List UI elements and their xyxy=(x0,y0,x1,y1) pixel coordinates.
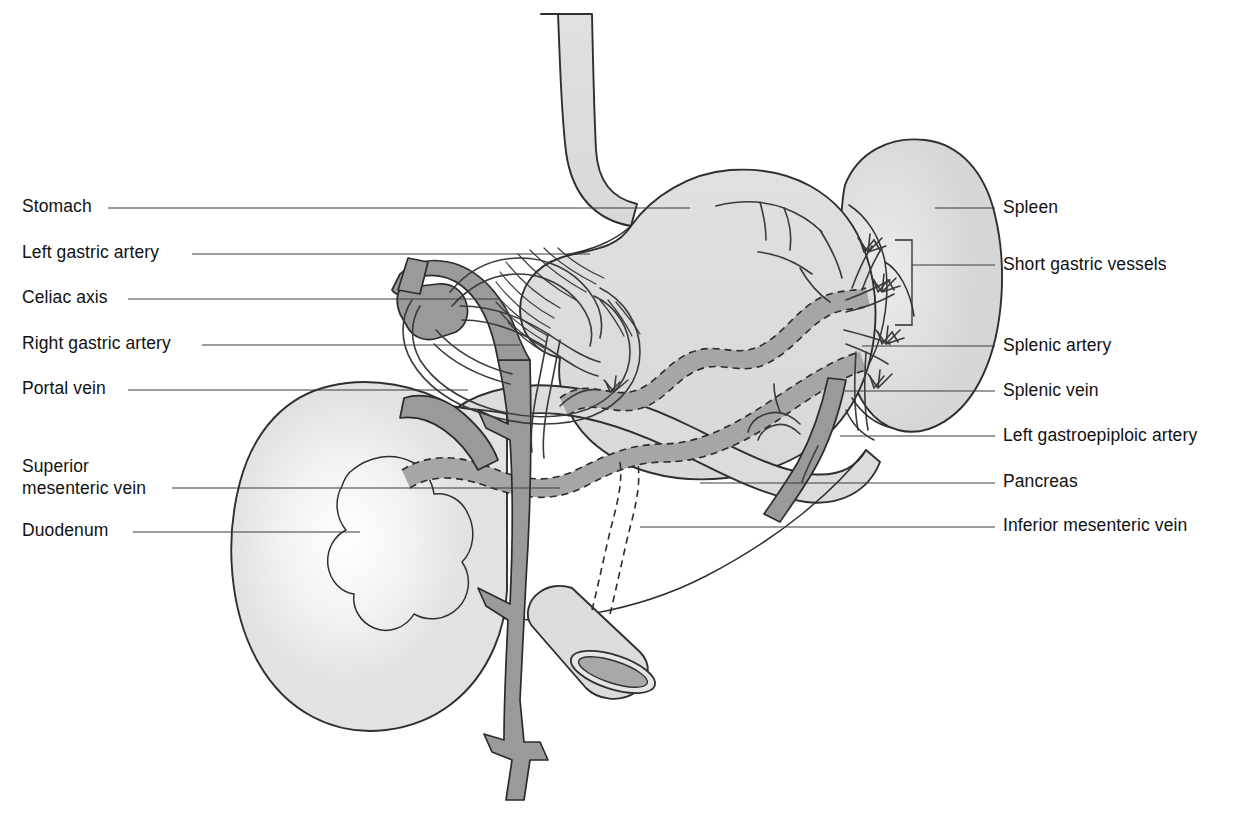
label-stomach: Stomach xyxy=(22,196,92,216)
label-celiac-axis: Celiac axis xyxy=(22,287,108,307)
label-portal-vein: Portal vein xyxy=(22,378,106,398)
label-inferior-mesenteric-vein: Inferior mesenteric vein xyxy=(1003,515,1187,535)
label-short-gastric-vessels: Short gastric vessels xyxy=(1003,254,1167,274)
labels-left-group: Stomach Left gastric artery Celiac axis … xyxy=(22,196,171,540)
label-pancreas: Pancreas xyxy=(1003,471,1078,491)
anatomy-figure: Stomach Left gastric artery Celiac axis … xyxy=(0,0,1237,825)
label-superior-mesenteric-vein-line2: mesenteric vein xyxy=(22,478,146,498)
labels-right-group: Spleen Short gastric vessels Splenic art… xyxy=(1003,197,1197,535)
label-right-gastric-artery: Right gastric artery xyxy=(22,333,171,353)
label-spleen: Spleen xyxy=(1003,197,1058,217)
label-superior-mesenteric-vein-line1: Superior xyxy=(22,456,89,476)
label-splenic-artery: Splenic artery xyxy=(1003,335,1112,355)
esophagus xyxy=(541,14,637,226)
inferior-mesenteric-vein-vessel xyxy=(592,462,639,614)
label-left-gastric-artery: Left gastric artery xyxy=(22,242,159,262)
label-duodenum: Duodenum xyxy=(22,520,108,540)
label-splenic-vein: Splenic vein xyxy=(1003,380,1099,400)
label-left-gastroepiploic-artery: Left gastroepiploic artery xyxy=(1003,425,1197,445)
